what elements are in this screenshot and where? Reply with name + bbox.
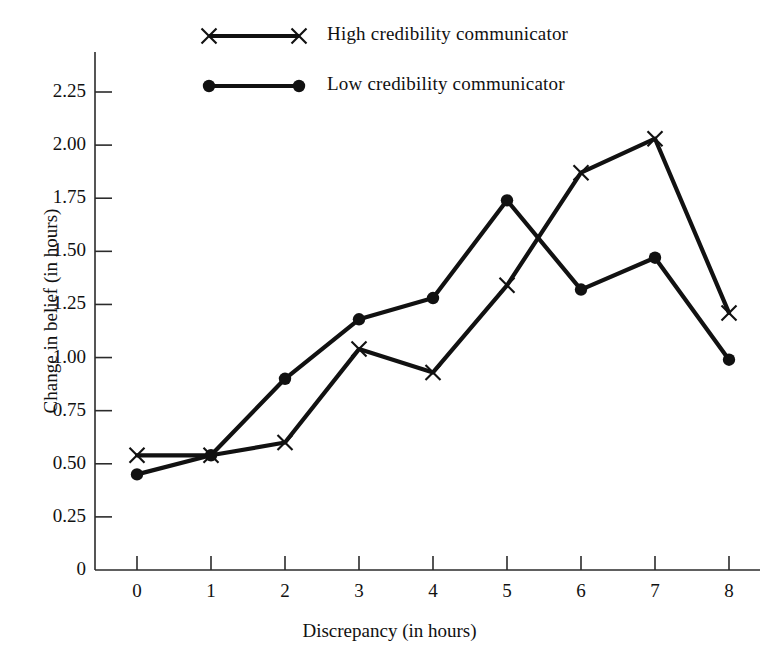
y-tick-label: 2.00 (10, 133, 86, 155)
legend-label-high-credibility: High credibility communicator (327, 23, 568, 45)
data-point-low-credibility (501, 194, 513, 206)
y-tick-label: 2.25 (10, 80, 86, 102)
line-chart-canvas (0, 0, 779, 661)
x-tick-label: 7 (630, 580, 680, 602)
x-axis-title: Discrepancy (in hours) (0, 620, 779, 642)
data-point-low-credibility (353, 313, 365, 325)
legend-marker-dot (293, 80, 305, 92)
y-tick-label: 1.25 (10, 292, 86, 314)
y-tick-label: 0.25 (10, 505, 86, 527)
data-point-low-credibility (131, 468, 143, 480)
x-tick-label: 0 (112, 580, 162, 602)
y-tick-label: 1.50 (10, 239, 86, 261)
data-point-low-credibility (205, 449, 217, 461)
y-tick-label: 1.75 (10, 186, 86, 208)
legend-label-low-credibility: Low credibility communicator (327, 73, 565, 95)
x-tick-label: 1 (186, 580, 236, 602)
y-tick-label: 1.00 (10, 346, 86, 368)
x-tick-label: 8 (704, 580, 754, 602)
data-point-high-credibility (500, 278, 515, 293)
x-tick-label: 6 (556, 580, 606, 602)
x-tick-label: 2 (260, 580, 310, 602)
data-point-low-credibility (279, 373, 291, 385)
y-tick-label: 0.50 (10, 452, 86, 474)
y-tick-label: 0.75 (10, 399, 86, 421)
data-point-low-credibility (723, 353, 735, 365)
data-point-high-credibility (574, 165, 589, 180)
legend-marker-dot (203, 80, 215, 92)
chart-figure: Change in belief (in hours) Discrepancy … (0, 0, 779, 661)
x-tick-label: 4 (408, 580, 458, 602)
x-tick-label: 5 (482, 580, 532, 602)
data-point-low-credibility (575, 283, 587, 295)
x-tick-label: 3 (334, 580, 384, 602)
series-line-low-credibility (137, 200, 729, 474)
y-tick-label: 0 (10, 558, 86, 580)
data-point-low-credibility (649, 252, 661, 264)
data-point-low-credibility (427, 292, 439, 304)
